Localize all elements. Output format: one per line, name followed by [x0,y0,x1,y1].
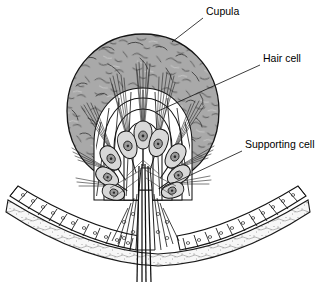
label-hair-cell: Hair cell [263,52,301,64]
label-supporting-cell: Supporting cell [245,138,314,150]
crista-ampullaris-figure: Cupula Hair cell Supporting cell [0,0,317,282]
diagram-canvas: Cupula Hair cell Supporting cell [0,0,317,282]
label-cupula: Cupula [206,5,239,17]
leader-cupula [172,18,203,42]
